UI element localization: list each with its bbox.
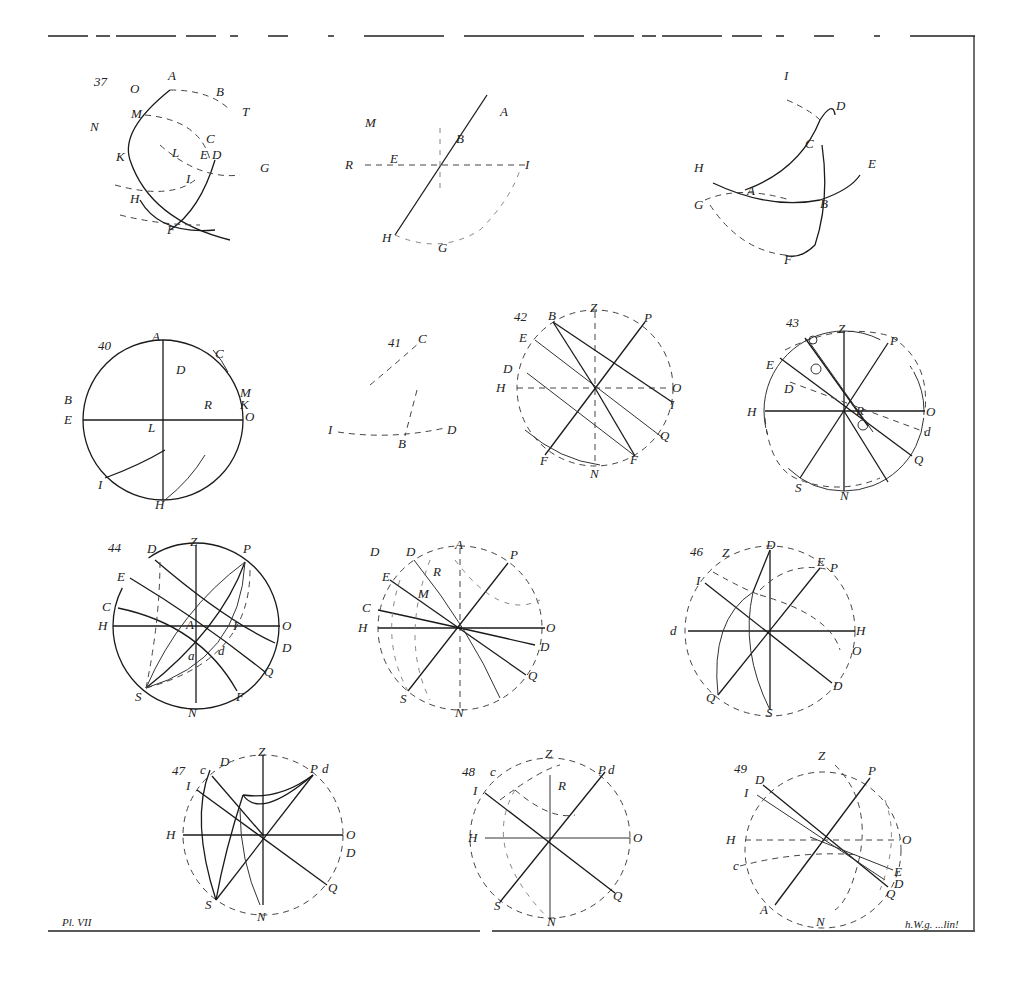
svg-text:I: I — [185, 171, 191, 186]
svg-text:D: D — [281, 640, 292, 655]
svg-text:43: 43 — [786, 315, 800, 330]
svg-text:P: P — [597, 762, 606, 777]
svg-text:C: C — [805, 136, 814, 151]
svg-text:A: A — [151, 329, 160, 344]
svg-text:H: H — [165, 827, 176, 842]
figure-46: 46 D Z I E P d H O D Q S — [670, 537, 866, 720]
figure-37: 37 O A B T M N C E D K L I G H F — [89, 68, 270, 240]
svg-text:F: F — [166, 222, 176, 237]
svg-text:H: H — [746, 404, 757, 419]
svg-text:E: E — [116, 569, 125, 584]
svg-text:A: A — [499, 104, 508, 119]
svg-text:d: d — [608, 762, 615, 777]
svg-text:O: O — [130, 81, 140, 96]
svg-text:O: O — [672, 380, 682, 395]
figure-41: 41 C I B D — [327, 331, 457, 451]
svg-text:D: D — [175, 362, 186, 377]
svg-text:H: H — [725, 832, 736, 847]
svg-text:S: S — [205, 897, 212, 912]
svg-text:D: D — [832, 678, 843, 693]
figure-49: 49 Z D P I H O c E D Q A N — [725, 748, 912, 929]
svg-text:H: H — [693, 160, 704, 175]
svg-text:N: N — [187, 705, 198, 720]
svg-text:A: A — [454, 537, 463, 552]
svg-text:D: D — [765, 537, 776, 552]
svg-text:E: E — [63, 412, 72, 427]
figure-44: 44 Z D P E C H A I O D a d Q S F N — [97, 534, 292, 720]
svg-text:40: 40 — [98, 338, 112, 353]
svg-text:G: G — [694, 197, 704, 212]
svg-text:H: H — [154, 497, 165, 512]
plate-label: Pl. VII — [61, 916, 93, 928]
svg-text:C: C — [206, 131, 215, 146]
svg-text:42: 42 — [514, 309, 528, 324]
svg-text:D: D — [211, 147, 222, 162]
svg-text:O: O — [926, 404, 936, 419]
svg-text:R: R — [344, 157, 353, 172]
svg-text:Q: Q — [528, 668, 538, 683]
svg-text:O: O — [282, 618, 292, 633]
svg-text:F: F — [539, 453, 549, 468]
svg-text:E: E — [816, 554, 825, 569]
svg-text:D: D — [146, 541, 157, 556]
svg-text:E: E — [765, 357, 774, 372]
svg-text:E: E — [199, 147, 208, 162]
svg-text:47: 47 — [172, 763, 186, 778]
figure-42: 42 Z B P E D H O I Q F F N — [495, 300, 682, 481]
svg-text:P: P — [889, 333, 898, 348]
svg-text:L: L — [147, 420, 155, 435]
svg-text:O: O — [546, 620, 556, 635]
svg-text:H: H — [129, 191, 140, 206]
svg-text:L: L — [171, 145, 179, 160]
svg-text:P: P — [242, 541, 251, 556]
svg-text:Z: Z — [722, 545, 730, 560]
svg-text:R: R — [203, 397, 212, 412]
svg-text:O: O — [346, 827, 356, 842]
svg-text:T: T — [242, 104, 250, 119]
svg-text:B: B — [820, 196, 828, 211]
svg-text:P: P — [643, 310, 652, 325]
svg-text:M: M — [417, 586, 430, 601]
svg-text:N: N — [256, 909, 267, 924]
svg-text:c: c — [733, 858, 739, 873]
svg-text:49: 49 — [734, 761, 748, 776]
svg-text:44: 44 — [108, 540, 122, 555]
svg-text:O: O — [852, 643, 862, 658]
svg-text:Q: Q — [613, 888, 623, 903]
svg-text:E: E — [389, 151, 398, 166]
svg-text:C: C — [102, 599, 111, 614]
figure-40: 40 A C D B R M K E O L I H — [63, 329, 255, 512]
svg-text:I: I — [232, 618, 238, 633]
svg-text:d: d — [218, 643, 225, 658]
svg-text:Z: Z — [545, 746, 553, 761]
svg-text:C: C — [215, 346, 224, 361]
svg-text:H: H — [855, 623, 866, 638]
engraved-plate: 37 O A B T M N C E D K L I G H F M A B R… — [0, 0, 1030, 984]
svg-text:G: G — [260, 160, 270, 175]
svg-text:E: E — [381, 569, 390, 584]
svg-text:Q: Q — [328, 880, 338, 895]
svg-text:H: H — [495, 380, 506, 395]
svg-text:P: P — [867, 763, 876, 778]
svg-text:Z: Z — [258, 744, 266, 759]
svg-text:F: F — [235, 689, 245, 704]
svg-text:S: S — [494, 898, 501, 913]
svg-text:O: O — [902, 832, 912, 847]
svg-text:D: D — [754, 772, 765, 787]
svg-text:I: I — [743, 785, 749, 800]
svg-text:D: D — [219, 754, 230, 769]
svg-text:D: D — [405, 544, 416, 559]
figure-48: 48 Z c R P d I H O Q S N — [462, 746, 643, 929]
svg-text:d: d — [322, 761, 329, 776]
svg-text:O: O — [633, 830, 643, 845]
svg-text:N: N — [839, 488, 850, 503]
figure-45: D D A P E R M C H O D Q S N — [357, 537, 556, 720]
svg-text:R: R — [432, 564, 441, 579]
svg-text:F: F — [783, 252, 793, 267]
svg-text:D: D — [783, 381, 794, 396]
svg-text:R: R — [557, 778, 566, 793]
figure-38: M A B R E I H G — [344, 95, 530, 255]
svg-text:S: S — [135, 689, 142, 704]
svg-text:S: S — [795, 480, 802, 495]
svg-text:Q: Q — [264, 664, 274, 679]
